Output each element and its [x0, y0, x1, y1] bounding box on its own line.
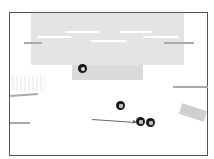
wave-line — [37, 36, 72, 38]
wave-line — [143, 36, 179, 38]
token-d[interactable] — [146, 118, 155, 127]
token-b[interactable] — [116, 101, 125, 110]
left-ledge — [24, 42, 42, 44]
square-icon — [139, 120, 143, 124]
wave-line — [65, 31, 99, 33]
grille-structure — [12, 75, 45, 91]
wave-line — [91, 40, 127, 42]
square-icon — [149, 121, 153, 125]
token-c[interactable] — [136, 117, 145, 126]
top-water-area — [31, 13, 184, 65]
right-ledge — [164, 42, 194, 44]
right-shelf — [173, 86, 208, 88]
circle-arrow-icon — [81, 67, 85, 71]
wave-line — [119, 31, 153, 33]
token-a[interactable] — [78, 64, 87, 73]
left-lower-shelf — [10, 122, 30, 124]
square-icon — [119, 104, 123, 108]
